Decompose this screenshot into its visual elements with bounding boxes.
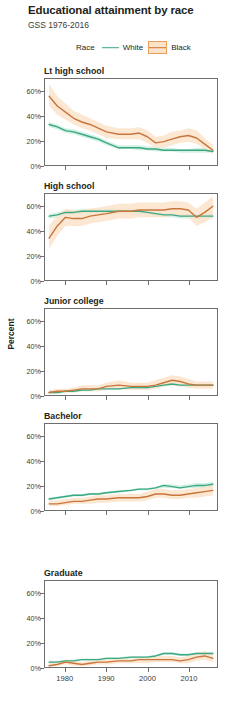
plot-area [44,423,218,511]
x-tick-mark [106,668,107,672]
chart-figure: Educational attainment by race GSS 1976-… [0,0,227,720]
x-tick-mark [148,281,149,285]
x-tick-mark [65,281,66,285]
y-tick-mark [40,396,44,397]
y-tick-mark [40,618,44,619]
x-tick-mark [65,511,66,515]
y-tick-label: 60% [27,201,41,210]
x-tick-mark [148,511,149,515]
x-tick-label: 2010 [181,674,198,683]
y-tick-label: 40% [27,111,41,120]
y-tick-mark [40,281,44,282]
x-tick-mark [106,511,107,515]
plot-area [44,78,218,166]
y-tick-mark [40,643,44,644]
x-tick-mark [106,281,107,285]
legend-swatch-white-icon [102,42,119,53]
x-tick-mark [148,166,149,170]
y-tick-label: 40% [27,226,41,235]
y-tick-mark [40,346,44,347]
x-tick-mark [148,396,149,400]
y-tick-label: 20% [27,136,41,145]
y-tick-mark [40,256,44,257]
legend-item-white: White [102,42,143,53]
y-tick-mark [40,436,44,437]
y-tick-label: 20% [27,251,41,260]
x-tick-mark [148,668,149,672]
y-tick-mark [40,668,44,669]
legend-item-black: Black [148,41,191,54]
plot-area [44,308,218,396]
x-tick-label: 1990 [98,674,115,683]
x-tick-mark [65,166,66,170]
y-tick-label: 60% [27,86,41,95]
legend-swatch-black-icon [148,41,167,54]
legend-label-black: Black [171,43,191,52]
facet-title: Junior college [44,296,104,306]
y-tick-mark [40,486,44,487]
chart-legend: Race White Black [76,41,191,54]
y-tick-label: 60% [27,316,41,325]
x-tick-mark [189,281,190,285]
facet-title: High school [44,181,94,191]
page-title: Educational attainment by race [28,4,194,16]
x-tick-mark [189,396,190,400]
x-tick-mark [106,396,107,400]
plot-area [44,193,218,281]
legend-label-white: White [123,43,143,52]
y-tick-label: 20% [27,638,41,647]
y-tick-label: 20% [27,481,41,490]
x-tick-mark [65,668,66,672]
y-tick-label: 40% [27,613,41,622]
y-tick-mark [40,141,44,142]
x-tick-mark [65,396,66,400]
x-tick-mark [189,511,190,515]
y-tick-mark [40,91,44,92]
y-tick-mark [40,461,44,462]
plot-area [44,580,218,668]
facet-title: Graduate [44,568,83,578]
facet-title: Bachelor [44,411,82,421]
y-tick-mark [40,166,44,167]
y-tick-label: 60% [27,431,41,440]
chart-subtitle: GSS 1976-2016 [28,20,89,30]
y-tick-label: 60% [27,588,41,597]
y-tick-label: 40% [27,341,41,350]
legend-title: Race [76,43,95,52]
y-tick-mark [40,206,44,207]
y-axis-label: Percent [6,306,16,362]
x-tick-mark [189,668,190,672]
y-tick-mark [40,231,44,232]
x-tick-label: 1980 [56,674,73,683]
y-tick-mark [40,593,44,594]
y-tick-mark [40,116,44,117]
y-tick-mark [40,321,44,322]
y-tick-mark [40,371,44,372]
y-tick-mark [40,511,44,512]
facet-title: Lt high school [44,66,104,76]
x-tick-label: 2000 [139,674,156,683]
y-tick-label: 40% [27,456,41,465]
x-tick-mark [106,166,107,170]
y-tick-label: 20% [27,366,41,375]
x-tick-mark [189,166,190,170]
